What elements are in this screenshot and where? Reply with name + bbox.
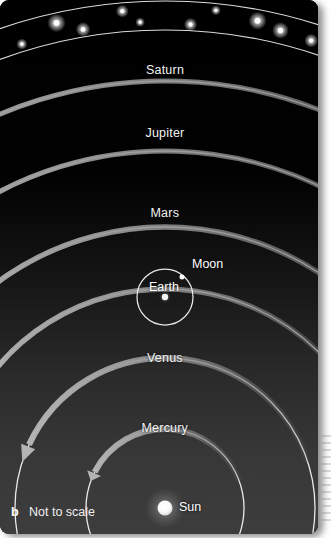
- page-margin-artifact: [322, 430, 331, 526]
- asteroid-dot: [188, 22, 192, 26]
- sun-disc: [158, 501, 173, 516]
- orbit-diagram-svg: [0, 0, 318, 534]
- body-label-sun: Sun: [179, 500, 201, 514]
- body-label-earth: Earth: [149, 280, 179, 294]
- body-label-moon: Moon: [192, 257, 223, 271]
- asteroid-dot: [309, 38, 313, 42]
- asteroid-dot: [54, 20, 60, 26]
- solar-system-diagram: Saturn Jupiter Mars Venus Mercury Earth …: [0, 0, 318, 534]
- asteroid-dot: [81, 27, 86, 32]
- asteroid-dot: [20, 42, 24, 46]
- asteroid-dot: [278, 28, 283, 33]
- scale-note: Not to scale: [29, 505, 95, 519]
- asteroid-dot: [139, 21, 142, 24]
- asteroid-dot: [120, 9, 124, 13]
- earth-dot: [162, 294, 168, 300]
- asteroid-dot: [214, 9, 217, 12]
- panel-letter: b: [11, 505, 19, 519]
- figure-root: Saturn Jupiter Mars Venus Mercury Earth …: [0, 0, 333, 538]
- moon-dot: [180, 275, 185, 280]
- asteroid-dot: [255, 18, 261, 24]
